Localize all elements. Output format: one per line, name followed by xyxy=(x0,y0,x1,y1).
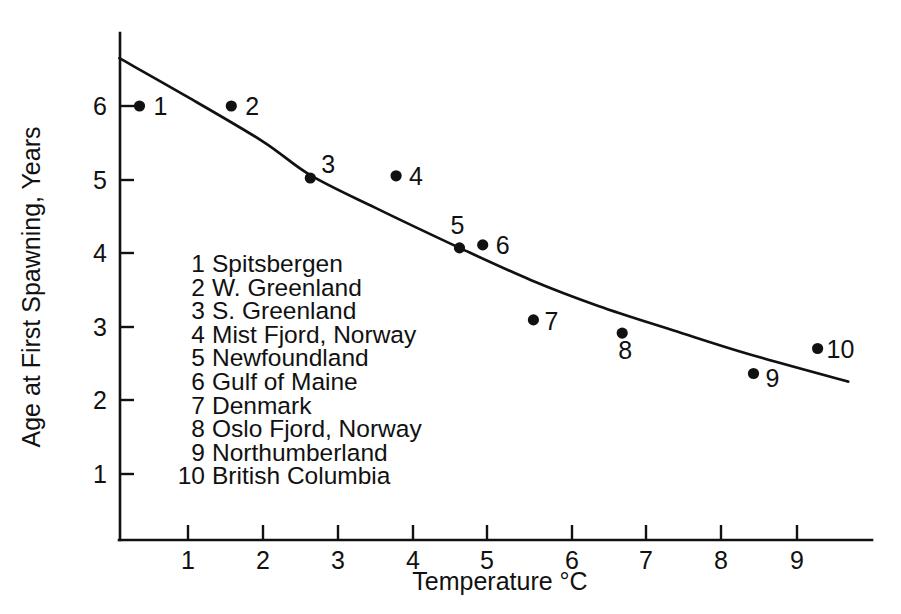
x-tick-label-3: 3 xyxy=(331,546,345,574)
data-point-label-1: 1 xyxy=(154,92,168,120)
data-point-dot-6 xyxy=(477,239,488,250)
y-tick-label-1: 1 xyxy=(93,460,107,488)
y-axis-ticks xyxy=(120,106,134,474)
data-point-dot-4 xyxy=(391,170,402,181)
y-tick-label-5: 5 xyxy=(93,166,107,194)
data-point-9: 9 xyxy=(748,364,780,392)
x-tick-label-1: 1 xyxy=(181,546,195,574)
data-point-dot-5 xyxy=(454,242,465,253)
data-point-label-2: 2 xyxy=(245,92,259,120)
data-point-10: 10 xyxy=(812,335,854,363)
data-point-label-5: 5 xyxy=(451,211,465,239)
x-axis-title: Temperature °C xyxy=(412,567,587,595)
data-point-6: 6 xyxy=(477,231,510,259)
legend-number-10: 10 xyxy=(178,462,205,489)
y-tick-label-2: 2 xyxy=(93,386,107,414)
data-point-4: 4 xyxy=(391,162,424,190)
y-axis-tick-labels: 6 5 4 3 2 1 xyxy=(93,92,107,488)
data-point-label-3: 3 xyxy=(321,150,335,178)
data-point-1: 1 xyxy=(134,92,168,120)
data-point-label-6: 6 xyxy=(496,231,510,259)
data-point-dot-2 xyxy=(226,100,237,111)
data-point-dot-1 xyxy=(134,100,145,111)
x-tick-label-9: 9 xyxy=(790,546,804,574)
data-point-dot-3 xyxy=(305,172,316,183)
y-axis-title: Age at First Spawning, Years xyxy=(17,126,45,447)
data-point-3: 3 xyxy=(305,150,336,184)
x-tick-label-8: 8 xyxy=(714,546,728,574)
chart-legend: 1Spitsbergen2W. Greenland3S. Greenland4M… xyxy=(178,250,423,489)
data-point-dot-9 xyxy=(748,368,759,379)
data-point-dot-7 xyxy=(528,314,539,325)
legend-label-10: British Columbia xyxy=(212,462,391,489)
data-point-7: 7 xyxy=(528,307,559,335)
y-tick-label-3: 3 xyxy=(93,313,107,341)
chart-canvas: 6 5 4 3 2 1 1 2 3 4 5 6 7 8 xyxy=(0,0,901,614)
scatter-chart-figure: 6 5 4 3 2 1 1 2 3 4 5 6 7 8 xyxy=(0,0,901,614)
data-point-label-9: 9 xyxy=(766,364,780,392)
data-point-label-7: 7 xyxy=(544,307,558,335)
data-point-2: 2 xyxy=(226,92,260,120)
legend-item-10: 10British Columbia xyxy=(178,462,391,489)
x-tick-label-7: 7 xyxy=(639,546,653,574)
data-point-8: 8 xyxy=(617,328,633,365)
data-point-label-10: 10 xyxy=(827,335,855,363)
data-point-label-4: 4 xyxy=(409,162,423,190)
y-tick-label-6: 6 xyxy=(93,92,107,120)
y-tick-label-4: 4 xyxy=(93,239,107,267)
x-axis-ticks xyxy=(188,525,797,540)
x-tick-label-2: 2 xyxy=(256,546,270,574)
data-point-label-8: 8 xyxy=(618,336,632,364)
data-point-5: 5 xyxy=(451,211,466,254)
data-point-dot-10 xyxy=(812,343,823,354)
